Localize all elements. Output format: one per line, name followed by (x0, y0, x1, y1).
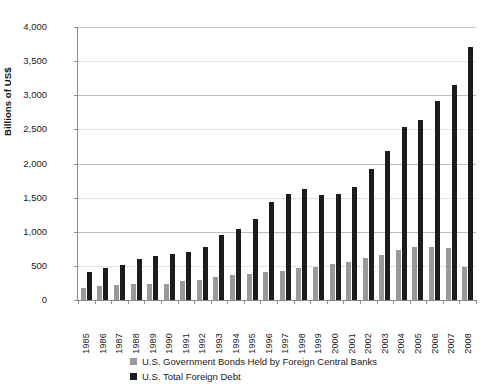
bar (219, 235, 224, 300)
x-tick-mark (443, 300, 444, 304)
x-tick-mark (343, 300, 344, 304)
plot-area: 05001,0001,5002,0002,5003,0003,5004,000 … (77, 27, 476, 301)
bar (363, 258, 368, 300)
y-tick-label: 1,500 (0, 192, 47, 203)
x-tick-label: 2006 (430, 333, 440, 354)
bar (120, 265, 125, 300)
x-tick-mark (459, 300, 460, 304)
x-tick-label: 1999 (313, 333, 323, 354)
bar (197, 280, 202, 300)
x-tick-label: 1988 (131, 333, 141, 354)
y-tick-label: 3,500 (0, 55, 47, 66)
y-tick-label: 2,000 (0, 158, 47, 169)
bar (269, 202, 274, 300)
x-tick-mark (244, 300, 245, 304)
bar (114, 285, 119, 300)
bar (170, 254, 175, 300)
x-tick-label: 1991 (181, 333, 191, 354)
bar (452, 85, 457, 300)
y-tick-label: 4,000 (0, 21, 47, 32)
x-tick-label: 1997 (280, 333, 290, 354)
legend-item-label: U.S. Total Foreign Debt (142, 371, 241, 382)
bar (462, 267, 467, 300)
x-tick-mark (393, 300, 394, 304)
y-tick-label: 3,000 (0, 89, 47, 100)
x-tick-mark (178, 300, 179, 304)
x-tick-label: 1994 (231, 333, 241, 354)
bar (330, 264, 335, 300)
bar (468, 47, 473, 300)
x-tick-label: 1996 (264, 333, 274, 354)
x-tick-label: 2004 (396, 333, 406, 354)
x-tick-mark (95, 300, 96, 304)
bar (418, 120, 423, 300)
x-tick-label: 1995 (247, 333, 257, 354)
bar (153, 256, 158, 300)
bar (280, 271, 285, 300)
bar (402, 127, 407, 300)
bar (369, 169, 374, 300)
bar (379, 255, 384, 300)
x-tick-mark (161, 300, 162, 304)
bar (87, 272, 92, 300)
bar (336, 194, 341, 300)
bar (230, 275, 235, 300)
x-tick-label: 1993 (214, 333, 224, 354)
bar (296, 268, 301, 300)
x-tick-label: 2005 (413, 333, 423, 354)
bar (147, 284, 152, 300)
x-tick-label: 2008 (463, 333, 473, 354)
bar (103, 268, 108, 300)
x-tick-mark (227, 300, 228, 304)
x-tick-mark (194, 300, 195, 304)
x-tick-mark (476, 300, 477, 304)
bar (180, 281, 185, 300)
bar (302, 189, 307, 300)
y-tick-label: 500 (0, 260, 47, 271)
bar (313, 267, 318, 300)
x-tick-mark (111, 300, 112, 304)
x-tick-mark (78, 300, 79, 304)
x-tick-label: 1990 (164, 333, 174, 354)
bar (352, 187, 357, 300)
x-tick-mark (260, 300, 261, 304)
bar (253, 219, 258, 300)
x-tick-mark (128, 300, 129, 304)
x-tick-mark (327, 300, 328, 304)
bar (247, 274, 252, 300)
x-tick-mark (360, 300, 361, 304)
x-tick-label: 1987 (114, 333, 124, 354)
bar (131, 284, 136, 300)
x-tick-mark (277, 300, 278, 304)
x-tick-mark (211, 300, 212, 304)
x-tick-label: 1985 (81, 333, 91, 354)
legend-swatch-icon (130, 373, 137, 380)
x-tick-mark (294, 300, 295, 304)
bar (286, 194, 291, 300)
x-tick-mark (144, 300, 145, 304)
x-tick-label: 2000 (330, 333, 340, 354)
bar (164, 284, 169, 300)
bar (385, 151, 390, 300)
bar (186, 252, 191, 300)
chart-legend: U.S. Government Bonds Held by Foreign Ce… (130, 356, 377, 384)
bar (346, 262, 351, 300)
bar (446, 248, 451, 300)
bar (263, 272, 268, 300)
bar-series-container (78, 27, 476, 300)
x-tick-label: 1989 (148, 333, 158, 354)
x-tick-label: 2001 (347, 333, 357, 354)
bar (97, 286, 102, 300)
bar (236, 229, 241, 300)
bar (203, 247, 208, 300)
bar (429, 247, 434, 300)
legend-swatch-icon (130, 358, 137, 365)
y-tick-label: 2,500 (0, 123, 47, 134)
bar (213, 277, 218, 300)
bar (412, 247, 417, 300)
bar (137, 259, 142, 300)
bar (435, 101, 440, 300)
x-tick-label: 2003 (380, 333, 390, 354)
bar (81, 288, 86, 300)
x-tick-label: 1992 (197, 333, 207, 354)
